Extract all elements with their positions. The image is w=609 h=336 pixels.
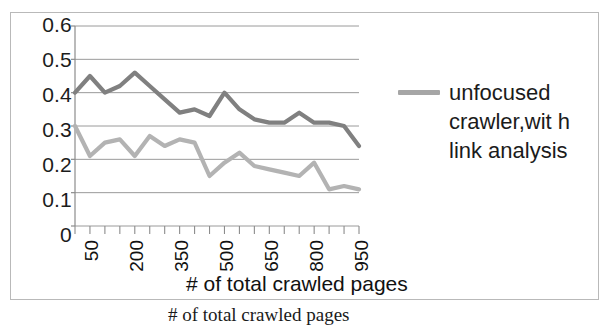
- y-tick-label: 0.5: [42, 48, 72, 72]
- x-axis-title: # of total crawled pages: [186, 272, 408, 296]
- y-tick-label: 0.6: [42, 13, 72, 37]
- figure-root: 0.6 0.5 0.4 0.3 0.2 0.1 0 50 200 350 500…: [0, 0, 609, 336]
- chart-canvas: [75, 26, 359, 226]
- x-tick-label: 50: [81, 240, 103, 261]
- figure-caption: # of total crawled pages: [168, 304, 349, 326]
- x-tick-label: 950: [351, 240, 373, 272]
- y-tick-label: 0.2: [42, 153, 72, 177]
- x-tick-label: 350: [171, 240, 193, 272]
- x-tick-label: 200: [126, 240, 148, 272]
- x-tick-label: 800: [306, 240, 328, 272]
- chart-legend: unfocused crawler,wit h link analysis: [398, 78, 598, 165]
- data-series-lines: [75, 73, 359, 190]
- legend-item-label: unfocused crawler,wit h link analysis: [449, 78, 598, 165]
- y-tick-label: 0.1: [42, 188, 72, 212]
- x-tick-label: 500: [216, 240, 238, 272]
- plot-area: [75, 26, 359, 226]
- y-tick-label: 0: [60, 223, 72, 247]
- y-tick-label: 0.3: [42, 118, 72, 142]
- gridlines: [75, 26, 359, 226]
- x-tick-label: 650: [261, 240, 283, 272]
- legend-item: unfocused crawler,wit h link analysis: [398, 78, 598, 165]
- legend-line-swatch-icon: [398, 90, 440, 95]
- y-axis-tick-labels: 0.6 0.5 0.4 0.3 0.2 0.1 0: [14, 18, 72, 228]
- y-tick-label: 0.4: [42, 83, 72, 107]
